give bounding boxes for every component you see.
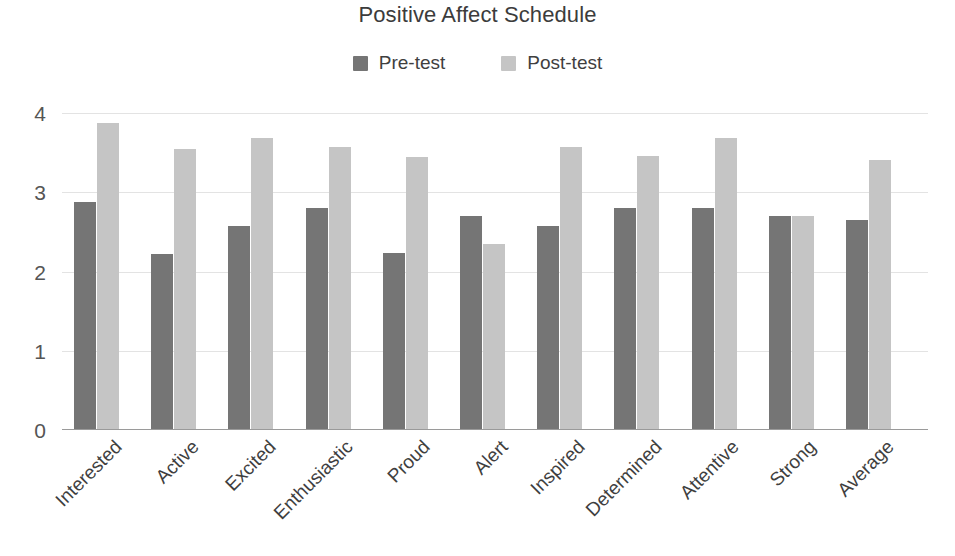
x-axis-label-attentive: Attentive xyxy=(676,436,744,504)
x-axis-label-proud: Proud xyxy=(383,436,434,487)
bar-active-post-test[interactable] xyxy=(174,149,196,430)
bar-alert-post-test[interactable] xyxy=(483,244,505,430)
chart-legend: Pre-test Post-test xyxy=(0,52,955,74)
bar-proud-pre-test[interactable] xyxy=(383,253,405,430)
legend-label-post-test: Post-test xyxy=(527,52,602,74)
x-axis-label-determined: Determined xyxy=(581,436,666,521)
bar-excited-pre-test[interactable] xyxy=(228,226,250,430)
bar-group xyxy=(306,113,351,430)
legend-label-pre-test: Pre-test xyxy=(379,52,446,74)
x-axis-label-active: Active xyxy=(151,436,203,488)
y-axis-tick-2: 2 xyxy=(6,261,46,282)
bar-active-pre-test[interactable] xyxy=(151,254,173,430)
legend-swatch-post-test xyxy=(501,56,516,71)
bar-group xyxy=(692,113,737,430)
legend-item-pre-test[interactable]: Pre-test xyxy=(353,52,446,74)
x-axis-labels: InterestedActiveExcitedEnthusiasticProud… xyxy=(62,432,928,556)
bar-group xyxy=(383,113,428,430)
bar-average-pre-test[interactable] xyxy=(846,220,868,430)
bar-interested-post-test[interactable] xyxy=(97,123,119,430)
bar-strong-post-test[interactable] xyxy=(792,216,814,430)
x-axis-label-strong: Strong xyxy=(766,436,821,491)
legend-swatch-pre-test xyxy=(353,56,368,71)
bar-group xyxy=(228,113,273,430)
bar-determined-post-test[interactable] xyxy=(637,156,659,430)
y-axis-tick-3: 3 xyxy=(6,182,46,203)
bar-group xyxy=(769,113,814,430)
y-axis-labels: 01234 xyxy=(0,113,62,430)
legend-item-post-test[interactable]: Post-test xyxy=(501,52,602,74)
y-axis-tick-4: 4 xyxy=(6,103,46,124)
bar-average-post-test[interactable] xyxy=(869,160,891,430)
bar-attentive-post-test[interactable] xyxy=(715,138,737,430)
x-axis-label-inspired: Inspired xyxy=(526,436,589,499)
bar-group xyxy=(74,113,119,430)
bar-determined-pre-test[interactable] xyxy=(614,208,636,430)
bar-group xyxy=(614,113,659,430)
chart-title: Positive Affect Schedule xyxy=(0,2,955,28)
bar-interested-pre-test[interactable] xyxy=(74,202,96,430)
bar-inspired-post-test[interactable] xyxy=(560,147,582,430)
bar-strong-pre-test[interactable] xyxy=(769,216,791,430)
bar-group xyxy=(537,113,582,430)
y-axis-tick-0: 0 xyxy=(6,420,46,441)
x-axis-label-interested: Interested xyxy=(51,436,126,511)
x-axis-label-excited: Excited xyxy=(221,436,281,496)
bar-group xyxy=(460,113,505,430)
bar-enthusiastic-post-test[interactable] xyxy=(329,147,351,430)
x-axis-line xyxy=(62,429,928,430)
bar-alert-pre-test[interactable] xyxy=(460,216,482,430)
bar-excited-post-test[interactable] xyxy=(251,138,273,430)
bar-attentive-pre-test[interactable] xyxy=(692,208,714,430)
bar-enthusiastic-pre-test[interactable] xyxy=(306,208,328,430)
y-axis-tick-1: 1 xyxy=(6,340,46,361)
x-axis-label-alert: Alert xyxy=(469,436,512,479)
bar-group xyxy=(151,113,196,430)
x-axis-label-average: Average xyxy=(833,436,898,501)
bar-inspired-pre-test[interactable] xyxy=(537,226,559,430)
bar-series-group xyxy=(62,113,928,430)
x-axis-label-enthusiastic: Enthusiastic xyxy=(270,436,358,524)
bar-group xyxy=(846,113,891,430)
bar-proud-post-test[interactable] xyxy=(406,157,428,430)
plot-area xyxy=(62,113,928,430)
chart-container: Positive Affect Schedule Pre-test Post-t… xyxy=(0,0,955,556)
